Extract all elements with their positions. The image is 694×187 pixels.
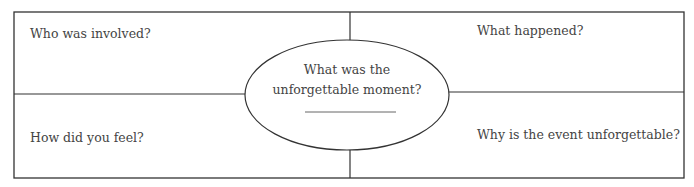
quadrant-top-right-prompt: What happened?	[477, 23, 583, 38]
quadrant-bottom-left-prompt: How did you feel?	[30, 130, 144, 145]
center-prompt-line-1: What was the	[247, 60, 447, 80]
center-prompt-line-2: unforgettable moment?	[247, 80, 447, 100]
quadrant-top-left-prompt: Who was involved?	[30, 26, 151, 41]
quadrant-bottom-right-prompt: Why is the event unforgettable?	[477, 127, 680, 142]
